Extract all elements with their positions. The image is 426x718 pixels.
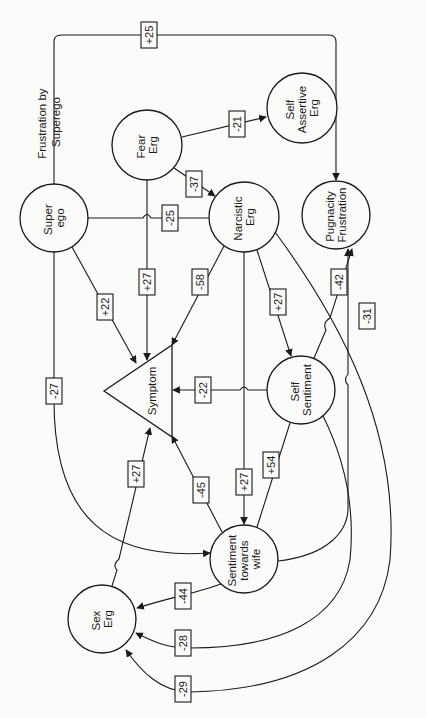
svg-text:-22: -22 (197, 382, 209, 398)
node-sentiment-towards-wife: Sentiment towards wife (210, 525, 278, 593)
edge-narcistic-sex (126, 232, 391, 692)
svg-text:+54: +54 (265, 456, 277, 475)
label-superego-wife: -27 (46, 378, 62, 404)
label-narcistic-sex: -29 (175, 676, 191, 702)
label-selfsent-pugnacity: -42 (331, 269, 347, 295)
node-symptom: Symptom (104, 345, 172, 437)
label-selfsent-wife: +54 (263, 452, 279, 478)
svg-text:+27: +27 (238, 473, 250, 492)
label-fear-symptom: +27 (139, 269, 155, 295)
svg-text:-25: -25 (164, 210, 176, 226)
svg-text:+27: +27 (141, 273, 153, 292)
svg-text:-21: -21 (231, 116, 243, 132)
svg-text:-28: -28 (177, 635, 189, 651)
node-sex-erg: Sex Erg (68, 585, 136, 653)
svg-text:+27: +27 (130, 465, 142, 484)
edge-selfsent-symptom (173, 387, 267, 390)
edge-superego-narcistic (88, 215, 209, 219)
label-narcistic-selfsent: +27 (270, 289, 286, 315)
svg-text:-37: -37 (188, 176, 200, 192)
label-fear-selfassert: -21 (229, 111, 245, 137)
label-wife-symptom: -45 (193, 477, 209, 503)
svg-text:-44: -44 (177, 588, 189, 604)
svg-text:-29: -29 (177, 681, 189, 697)
node-self-assertive-erg: Self Assertive Erg (267, 73, 337, 143)
svg-text:+22: +22 (99, 298, 111, 317)
label-fear-narcistic: -37 (186, 171, 202, 197)
svg-text:Symptom: Symptom (146, 367, 158, 416)
edge-sex-symptom (112, 428, 150, 586)
label-narcistic-wife: +27 (236, 469, 252, 495)
svg-text:-42: -42 (333, 274, 345, 290)
label-narcistic-symptom: -58 (192, 269, 208, 295)
svg-text:+25: +25 (143, 26, 155, 45)
label-wife-pugnacity: -31 (359, 303, 375, 329)
node-superego: Super ego (20, 184, 88, 252)
svg-text:Sex Erg: Sex Erg (90, 607, 114, 630)
node-self-sentiment: Self Sentiment (267, 356, 335, 424)
svg-text:-31: -31 (361, 308, 373, 324)
label-wife-sex: -44 (175, 583, 191, 609)
label-superego-narcistic: -25 (162, 205, 178, 231)
svg-text:+27: +27 (272, 293, 284, 312)
svg-text:-58: -58 (194, 274, 206, 290)
svg-text:-45: -45 (195, 482, 207, 498)
svg-text:-27: -27 (48, 383, 60, 399)
label-superego-pugnacity: +25 (141, 22, 157, 48)
edge-fear-selfassert (182, 117, 266, 137)
label-selfsent-symptom: -22 (195, 377, 211, 403)
svg-text:Pugnacity Frustration: Pugnacity Frustration (324, 188, 348, 243)
label-sex-symptom: +27 (128, 461, 144, 487)
edge-selfsent-pugnacity (314, 249, 352, 358)
annotation-frustration-by-superego: Frustration by Superego (36, 85, 62, 159)
node-fear-erg: Fear Erg (112, 110, 182, 180)
label-selfsent-sex: -28 (175, 630, 191, 656)
node-narcistic-erg: Narcistic Erg (209, 182, 279, 252)
path-diagram: +25 -21 -37 -25 +27 +22 -58 +27 -42 -31 … (0, 0, 426, 718)
label-superego-symptom: +22 (97, 294, 113, 320)
node-pugnacity-frustration: Pugnacity Frustration (302, 181, 370, 249)
